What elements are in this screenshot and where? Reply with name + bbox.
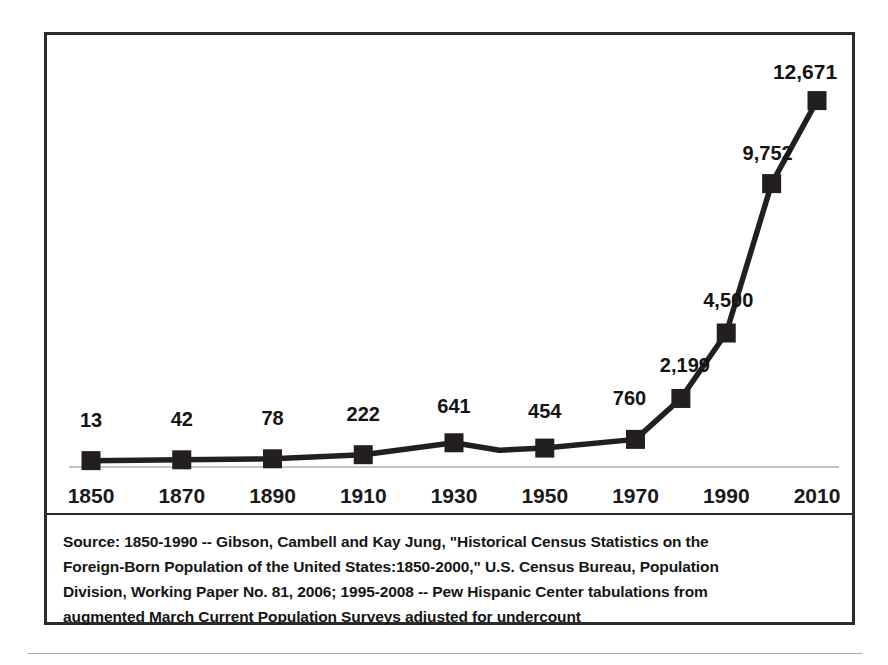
x-tick-label: 1930 [431, 484, 478, 507]
value-label: 12,671 [773, 60, 838, 83]
data-point-marker [535, 439, 554, 458]
value-label: 42 [171, 408, 193, 430]
source-note: Source: 1850-1990 -- Gibson, Cambell and… [47, 515, 852, 622]
line-chart: 1342782226414547602,1994,5009,75212,671 … [47, 35, 852, 513]
x-tick-label: 1850 [68, 484, 115, 507]
data-point-marker [82, 451, 101, 470]
value-label: 2,199 [660, 354, 710, 376]
value-label: 78 [261, 407, 283, 429]
value-label: 9,752 [743, 142, 793, 164]
value-label: 454 [528, 400, 562, 422]
x-tick-label: 1950 [521, 484, 568, 507]
data-point-marker [671, 389, 690, 408]
x-tick-label: 2010 [794, 484, 841, 507]
figure-frame: 1342782226414547602,1994,5009,75212,671 … [44, 32, 855, 625]
x-tick-label: 1970 [612, 484, 659, 507]
data-point-marker [172, 450, 191, 469]
source-note-line-1: Source: 1850-1990 -- Gibson, Cambell and… [63, 529, 834, 554]
data-point-marker [717, 324, 736, 343]
x-tick-label: 1890 [249, 484, 296, 507]
data-point-marker [762, 174, 781, 193]
data-value-labels: 1342782226414547602,1994,5009,75212,671 [80, 60, 838, 431]
value-label: 222 [347, 403, 380, 425]
data-point-marker [354, 445, 373, 464]
x-axis-tick-labels: 185018701890191019301950197019902010 [68, 484, 841, 507]
data-point-marker [263, 449, 282, 468]
value-label: 4,500 [703, 289, 753, 311]
data-point-marker [808, 91, 827, 110]
value-label: 641 [437, 395, 470, 417]
source-note-line-2: Foreign-Born Population of the United St… [63, 554, 834, 579]
data-point-marker [626, 430, 645, 449]
x-tick-label: 1910 [340, 484, 387, 507]
source-note-line-3: Division, Working Paper No. 81, 2006; 19… [63, 579, 834, 604]
source-note-line-4: augmented March Current Population Surve… [63, 604, 834, 629]
value-label: 760 [613, 387, 646, 409]
bottom-rule [28, 653, 862, 654]
x-tick-label: 1990 [703, 484, 750, 507]
x-tick-label: 1870 [158, 484, 205, 507]
data-point-marker [445, 433, 464, 452]
value-label: 13 [80, 409, 102, 431]
chart-plot-area: 1342782226414547602,1994,5009,75212,671 … [47, 35, 852, 513]
